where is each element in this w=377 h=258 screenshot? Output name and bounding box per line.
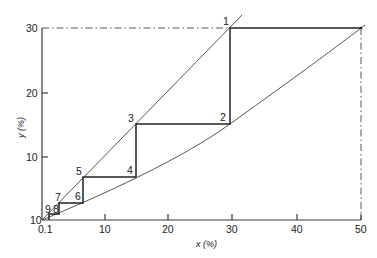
operating-line bbox=[42, 15, 242, 220]
x-axis-title: x (%) bbox=[195, 239, 217, 249]
staircase-diagram: 1 2 3 4 5 6 7 8 9 30 20 10 10 0.1 10 20 … bbox=[0, 0, 377, 258]
y-tick-label-30: 30 bbox=[26, 22, 38, 34]
x-tick-label-20: 20 bbox=[162, 223, 174, 235]
point-label-8: 8 bbox=[53, 203, 59, 215]
point-label-1: 1 bbox=[223, 15, 229, 27]
point-label-5: 5 bbox=[76, 165, 82, 177]
x-tick-label-30: 30 bbox=[226, 223, 238, 235]
x-tick-label-50: 50 bbox=[355, 223, 367, 235]
staircase-steps bbox=[49, 28, 361, 220]
x-tick-label-origin: 0.1 bbox=[38, 223, 53, 235]
y-axis-title: y (%) bbox=[16, 117, 26, 139]
y-tick-label-10: 10 bbox=[26, 151, 38, 163]
x-tick-label-10: 10 bbox=[99, 223, 111, 235]
point-label-3: 3 bbox=[128, 112, 134, 124]
x-tick-label-40: 40 bbox=[291, 223, 303, 235]
point-label-9: 9 bbox=[45, 203, 51, 215]
point-label-7: 7 bbox=[55, 191, 61, 203]
y-tick-label-20: 20 bbox=[26, 87, 38, 99]
point-label-4: 4 bbox=[127, 164, 133, 176]
point-label-2: 2 bbox=[220, 111, 226, 123]
point-label-6: 6 bbox=[75, 190, 81, 202]
reference-point bbox=[360, 27, 363, 30]
